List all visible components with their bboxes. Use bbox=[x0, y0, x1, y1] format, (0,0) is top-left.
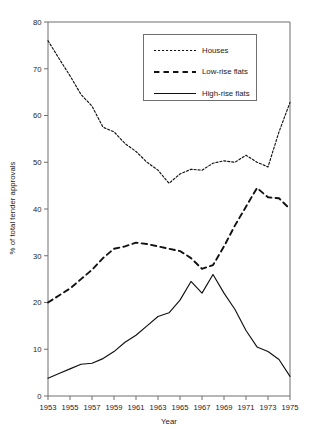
x-tick-label: 1965 bbox=[172, 403, 189, 412]
x-tick-label: 1955 bbox=[62, 403, 79, 412]
y-tick-label: 20 bbox=[33, 298, 41, 307]
x-tick-label: 1961 bbox=[128, 403, 145, 412]
x-tick-label: 1973 bbox=[260, 403, 277, 412]
y-tick-label: 10 bbox=[33, 345, 41, 354]
x-tick-label: 1969 bbox=[216, 403, 233, 412]
y-tick-label: 40 bbox=[33, 205, 41, 214]
x-tick-label: 1959 bbox=[106, 403, 123, 412]
x-tick-label: 1963 bbox=[150, 403, 167, 412]
y-tick-label: 50 bbox=[33, 158, 41, 167]
y-axis-title: % of total tender approvals bbox=[8, 162, 17, 255]
x-axis-title: Year bbox=[161, 417, 177, 426]
y-tick-label: 0 bbox=[37, 392, 41, 401]
x-axis-ticks: 1953195519571959196119631965196719691971… bbox=[40, 396, 299, 412]
x-tick-label: 1953 bbox=[40, 403, 57, 412]
line-chart: 01020304050607080 1953195519571959196119… bbox=[0, 0, 313, 440]
series-line-low-rise-flats bbox=[48, 188, 290, 303]
series-line-high-rise-flats bbox=[48, 274, 290, 378]
y-tick-label: 30 bbox=[33, 252, 41, 261]
legend: HousesLow-rise flatsHigh-rise flats bbox=[144, 35, 257, 101]
x-tick-label: 1957 bbox=[84, 403, 101, 412]
x-tick-label: 1971 bbox=[238, 403, 255, 412]
chart-container: 01020304050607080 1953195519571959196119… bbox=[0, 0, 313, 440]
legend-label-high-rise-flats: High-rise flats bbox=[202, 89, 250, 98]
legend-label-houses: Houses bbox=[202, 46, 229, 55]
x-tick-label: 1967 bbox=[194, 403, 211, 412]
y-tick-label: 60 bbox=[33, 111, 41, 120]
x-tick-label: 1975 bbox=[282, 403, 299, 412]
legend-label-low-rise-flats: Low-rise flats bbox=[202, 67, 248, 76]
y-axis-ticks: 01020304050607080 bbox=[33, 18, 48, 401]
y-tick-label: 80 bbox=[33, 18, 41, 27]
y-tick-label: 70 bbox=[33, 65, 41, 74]
